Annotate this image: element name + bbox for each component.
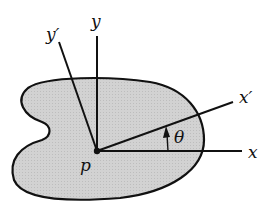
diagram-canvas: y′ y x′ x θ p — [0, 0, 272, 210]
label-y-prime: y′ — [45, 24, 60, 44]
origin-point-p — [94, 148, 100, 154]
label-y: y — [90, 11, 101, 31]
label-x-prime: x′ — [239, 87, 253, 107]
label-x: x — [248, 142, 258, 162]
label-theta: θ — [174, 127, 184, 147]
label-p: p — [80, 155, 91, 175]
